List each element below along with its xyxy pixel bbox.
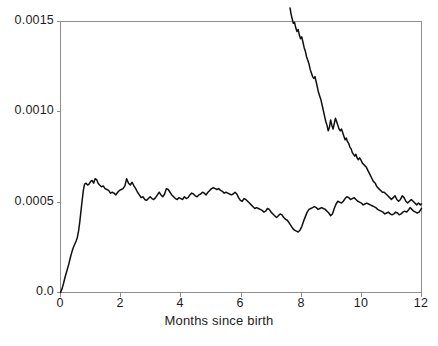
xtick-label-10: 10	[347, 296, 375, 310]
ytick-label-1: 0.0005	[2, 194, 54, 208]
xtick-label-0: 0	[46, 296, 74, 310]
axes-group	[61, 22, 422, 293]
figure-container: 0.0 0.0005 0.0010 0.0015 0 2 4 6 8 10 12…	[0, 0, 438, 346]
xtick-label-12: 12	[407, 296, 435, 310]
xtick-label-6: 6	[226, 296, 254, 310]
series-lower-curve	[61, 179, 422, 293]
ytick-label-3: 0.0015	[2, 13, 54, 27]
ytick-label-2: 0.0010	[2, 103, 54, 117]
xtick-label-4: 4	[166, 296, 194, 310]
line-chart-plot	[0, 0, 438, 346]
data-series-group	[61, 8, 422, 293]
caption-remnant	[18, 335, 188, 343]
xtick-label-8: 8	[287, 296, 315, 310]
xtick-label-2: 2	[106, 296, 134, 310]
series-upper-curve	[290, 8, 421, 205]
x-axis-title: Months since birth	[0, 313, 438, 328]
axis-ticks	[57, 22, 422, 297]
